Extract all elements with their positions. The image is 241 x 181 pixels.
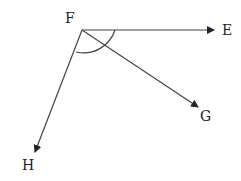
label-g: G — [200, 108, 211, 124]
angle-arc-efh — [76, 30, 115, 53]
ray-fh — [35, 30, 82, 152]
ray-fg — [82, 30, 198, 107]
angle-diagram: F E G H — [0, 0, 241, 181]
label-f: F — [65, 10, 75, 26]
label-e: E — [222, 22, 232, 38]
label-h: H — [22, 157, 34, 173]
